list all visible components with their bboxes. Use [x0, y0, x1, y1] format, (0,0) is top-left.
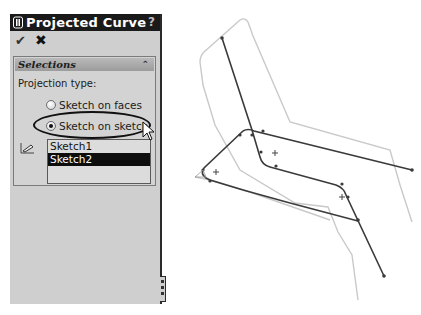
list-item-selected[interactable]: Sketch2	[48, 153, 150, 166]
help-button[interactable]: ?	[148, 14, 155, 31]
selections-header[interactable]: Selections ⌃	[15, 58, 154, 71]
radio-sketch-on-faces[interactable]: Sketch on faces	[46, 99, 142, 111]
radio-button-icon[interactable]	[46, 100, 56, 110]
selections-group: Selections ⌃ Projection type: Sketch on …	[13, 56, 156, 186]
projected-curve-icon	[13, 16, 23, 29]
model-silhouette	[195, 19, 412, 300]
ok-button[interactable]: ✔	[15, 33, 26, 48]
sketch-selection-icon	[20, 141, 36, 155]
list-item[interactable]: Sketch1	[48, 140, 150, 153]
radio-label: Sketch on faces	[59, 99, 142, 111]
panel-titlebar: Projected Curve ?	[10, 14, 160, 31]
property-manager-panel: Projected Curve ? ✔ ✖ Selections ⌃ Proje…	[10, 14, 162, 304]
radio-label: Sketch on sketch	[59, 120, 148, 132]
panel-resize-grip[interactable]	[160, 276, 166, 302]
projected-curve	[202, 38, 412, 276]
radio-sketch-on-sketch[interactable]: Sketch on sketch	[46, 120, 148, 132]
projection-type-label: Projection type:	[18, 78, 96, 89]
sketch-selection-list[interactable]: Sketch1 Sketch2	[47, 139, 151, 184]
panel-title: Projected Curve	[26, 14, 146, 31]
panel-toolbar: ✔ ✖	[10, 32, 160, 50]
mouse-cursor-icon	[142, 121, 156, 141]
collapse-chevron-icon[interactable]: ⌃	[141, 58, 149, 71]
selections-title: Selections	[18, 58, 76, 71]
cancel-button[interactable]: ✖	[35, 32, 47, 48]
radio-button-selected-icon[interactable]	[46, 121, 56, 131]
